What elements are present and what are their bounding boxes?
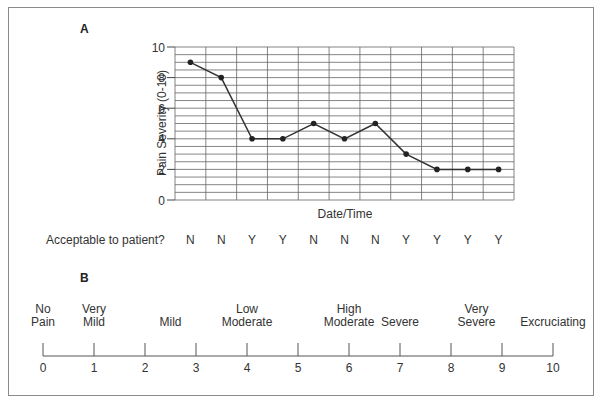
scale-tick-label: 4 xyxy=(244,361,251,375)
x-axis-label: Date/Time xyxy=(318,207,373,221)
scale-descriptor: VeryMild xyxy=(82,303,106,329)
acceptable-value: Y xyxy=(464,233,472,247)
scale-tick-label: 7 xyxy=(397,361,404,375)
panel-b-label: B xyxy=(80,271,89,285)
data-point xyxy=(249,136,255,142)
data-point xyxy=(218,75,224,81)
data-point xyxy=(403,151,409,157)
acceptable-value: Y xyxy=(248,233,256,247)
data-point xyxy=(373,121,379,127)
acceptable-value: Y xyxy=(279,233,287,247)
y-tick-label: 6 xyxy=(158,102,165,116)
data-point xyxy=(311,121,317,127)
scale-descriptor: HighModerate xyxy=(324,303,375,329)
scale-tick-label: 8 xyxy=(448,361,455,375)
acceptable-row-label: Acceptable to patient? xyxy=(46,233,165,247)
data-point xyxy=(496,167,502,173)
acceptable-value: Y xyxy=(433,233,441,247)
y-tick-label: 10 xyxy=(152,41,166,55)
scale-descriptor: NoPain xyxy=(31,303,55,329)
scale-descriptor: Mild xyxy=(159,303,181,329)
scale-tick-label: 10 xyxy=(546,361,559,375)
acceptable-value: N xyxy=(340,233,349,247)
y-tick-label: 2 xyxy=(158,163,165,177)
scale-tick-label: 0 xyxy=(40,361,47,375)
scale-descriptor: VerySevere xyxy=(457,303,495,329)
acceptable-value: N xyxy=(371,233,380,247)
scale-tick-label: 2 xyxy=(142,361,149,375)
acceptable-value: Y xyxy=(402,233,410,247)
y-tick-label: 0 xyxy=(158,194,165,208)
data-point xyxy=(434,167,440,173)
acceptable-value: N xyxy=(186,233,195,247)
scale-tick-label: 9 xyxy=(499,361,506,375)
scale-tick-label: 6 xyxy=(346,361,353,375)
scale-tick-label: 5 xyxy=(295,361,302,375)
scale-descriptor: Severe xyxy=(381,303,419,329)
acceptable-value: N xyxy=(309,233,318,247)
data-point xyxy=(188,60,194,66)
acceptable-value: N xyxy=(217,233,226,247)
pain-severity-chart: 0246810 xyxy=(0,0,603,399)
data-point xyxy=(342,136,348,142)
scale-descriptor: LowModerate xyxy=(222,303,273,329)
y-tick-label: 8 xyxy=(158,71,165,85)
scale-descriptor: Excruciating xyxy=(520,303,585,329)
y-tick-label: 4 xyxy=(158,132,165,146)
scale-tick-label: 1 xyxy=(91,361,98,375)
acceptable-value: Y xyxy=(495,233,503,247)
data-point xyxy=(280,136,286,142)
scale-tick-label: 3 xyxy=(193,361,200,375)
data-point xyxy=(465,167,471,173)
